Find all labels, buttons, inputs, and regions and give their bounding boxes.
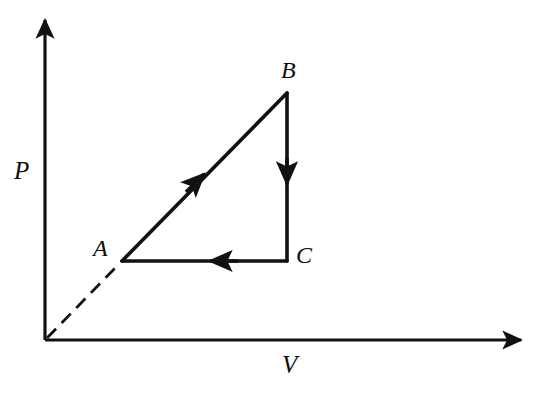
vertex-label-c: C [296, 243, 312, 267]
x-axis-label: V [282, 352, 297, 377]
diagram-canvas [0, 0, 555, 395]
segment-a-to-b [122, 93, 287, 261]
dashed-origin-line [47, 263, 120, 338]
vertex-label-b: B [281, 58, 296, 82]
vertex-label-a: A [93, 236, 108, 260]
cycle-path-group [122, 93, 287, 261]
arrow-a-to-b-icon [186, 174, 204, 192]
pv-diagram-figure: P V A B C [0, 0, 555, 395]
y-axis-label: P [14, 158, 29, 183]
